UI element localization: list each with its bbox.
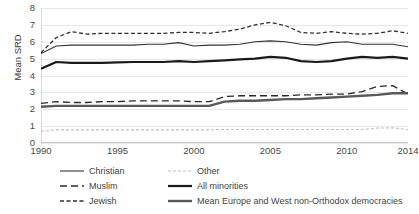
x-axis-tick-label: 2010	[336, 145, 357, 156]
legend-item[interactable]: Muslim	[60, 181, 118, 191]
x-axis-tick-label: 2000	[183, 145, 204, 156]
x-axis-tick-labels: 199019952000200520102014	[41, 145, 408, 159]
series-line	[41, 22, 408, 52]
legend-label: Mean Europe and West non-Orthodox democr…	[197, 196, 402, 206]
legend-item[interactable]: Other	[168, 166, 220, 176]
y-axis-tick-label: 2	[5, 104, 35, 114]
x-axis-tick-label: 2005	[260, 145, 281, 156]
legend-swatch-icon	[60, 166, 84, 176]
series-line	[41, 93, 408, 107]
y-axis-tick-label: 8	[5, 3, 35, 13]
legend-item[interactable]: Christian	[60, 166, 125, 176]
legend-swatch-icon	[60, 196, 84, 206]
legend-swatch-icon	[60, 181, 84, 191]
legend-label: Other	[197, 166, 220, 176]
y-axis-tick-labels: 012345678	[5, 8, 35, 143]
legend-swatch-icon	[168, 196, 192, 206]
y-axis-tick-label: 6	[5, 37, 35, 47]
y-axis-tick-label: 1	[5, 121, 35, 131]
series-lines	[41, 8, 408, 143]
plot-area	[41, 8, 408, 143]
legend-item[interactable]: Jewish	[60, 196, 117, 206]
legend-swatch-icon	[168, 166, 192, 176]
y-axis-tick-label: 3	[5, 87, 35, 97]
series-line	[41, 41, 408, 54]
legend-swatch-icon	[168, 181, 192, 191]
y-axis-tick-label: 4	[5, 71, 35, 81]
y-axis-tick-label: 7	[5, 20, 35, 30]
legend-label: Christian	[89, 166, 125, 176]
series-line	[41, 57, 408, 69]
legend-item[interactable]: All minorities	[168, 181, 248, 191]
legend-item[interactable]: Mean Europe and West non-Orthodox democr…	[168, 196, 402, 206]
series-line	[41, 128, 408, 131]
chart-legend: ChristianOtherMuslimAll minoritiesJewish…	[60, 166, 410, 212]
legend-label: Jewish	[89, 196, 117, 206]
legend-label: All minorities	[197, 181, 248, 191]
x-axis-tick-label: 1995	[107, 145, 128, 156]
gridline	[41, 143, 408, 144]
x-axis-tick-label: 2014	[397, 145, 418, 156]
legend-label: Muslim	[89, 181, 118, 191]
y-axis-tick-label: 5	[5, 54, 35, 64]
x-axis-tick-label: 1990	[30, 145, 51, 156]
